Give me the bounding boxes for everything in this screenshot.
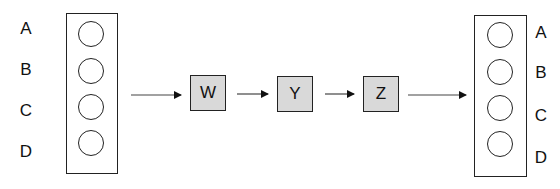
block-z: Z — [363, 76, 399, 112]
input-node-d — [78, 130, 104, 156]
block-w: W — [190, 75, 226, 111]
output-label-c: C — [531, 106, 551, 126]
input-node-c — [78, 94, 104, 120]
input-layer-box — [66, 13, 118, 174]
block-y: Y — [277, 76, 313, 112]
output-layer-box — [474, 15, 527, 177]
output-node-d — [487, 131, 513, 157]
output-node-a — [487, 22, 513, 48]
input-label-a: A — [16, 19, 36, 39]
output-label-a: A — [531, 23, 551, 43]
input-label-d: D — [16, 142, 36, 162]
input-node-a — [78, 21, 104, 47]
output-label-d: D — [531, 148, 551, 168]
output-node-b — [487, 59, 513, 85]
input-label-c: C — [16, 101, 36, 121]
output-node-c — [487, 95, 513, 121]
input-node-b — [78, 58, 104, 84]
output-label-b: B — [531, 63, 551, 83]
input-label-b: B — [16, 60, 36, 80]
